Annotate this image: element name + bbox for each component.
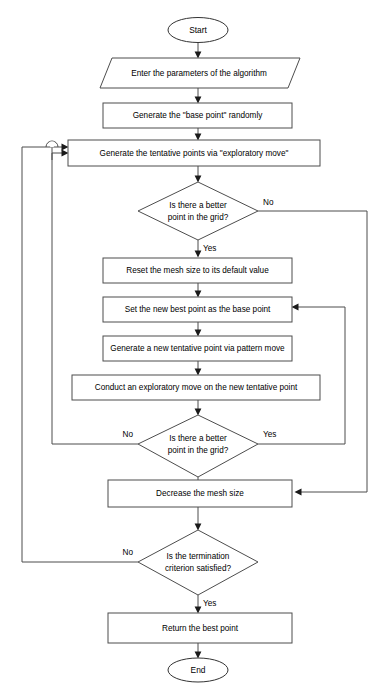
node-generate-pattern-move-label: Generate a new tentative point via patte… xyxy=(110,344,285,353)
node-decision-better-point-1-label-line2: point in the grid? xyxy=(168,213,229,222)
line-jump-mask xyxy=(50,142,54,148)
node-decision-better-point-2-label-line2: point in the grid? xyxy=(168,446,229,455)
node-conduct-exploratory-move-label: Conduct an exploratory move on the new t… xyxy=(95,383,298,392)
arrowhead-genbase-to-gentent xyxy=(195,134,202,141)
arrowhead-decision3-no xyxy=(62,144,69,151)
edge-label-decision1-no: No xyxy=(263,198,274,207)
arrowhead-pattern-to-conduct xyxy=(195,369,202,376)
flowchart-diagram: Start Enter the parameters of the algori… xyxy=(0,0,388,692)
node-decrease-mesh-size-label: Decrease the mesh size xyxy=(156,489,244,498)
arrowhead-decision3-yes xyxy=(195,607,202,614)
node-decision-better-point-1-label-line1: Is there a better xyxy=(169,201,227,210)
edge-label-decision1-yes: Yes xyxy=(203,244,216,253)
arrowhead-reset-to-setbest xyxy=(195,291,202,298)
node-reset-mesh-size-label: Reset the mesh size to its default value xyxy=(126,266,269,275)
node-generate-base-point-label: Generate the "base point" randomly xyxy=(133,111,264,120)
node-decision-termination-label-line2: criterion satisfied? xyxy=(165,564,231,573)
node-decision-termination-label-line1: Is the termination xyxy=(167,552,230,561)
edge-label-decision2-no: No xyxy=(123,430,134,439)
node-start-label: Start xyxy=(189,25,207,35)
arrowhead-decision1-no xyxy=(295,489,302,496)
node-end-label: End xyxy=(191,665,206,675)
edge-label-decision3-yes: Yes xyxy=(203,599,216,608)
edge-label-decision3-no: No xyxy=(123,548,134,557)
node-generate-tentative-points-label: Generate the tentative points via "explo… xyxy=(100,149,289,158)
node-decision-better-point-2-label-line1: Is there a better xyxy=(169,434,227,443)
flowchart-canvas: Start Enter the parameters of the algori… xyxy=(0,0,388,692)
node-set-best-point-label: Set the new best point as the base point xyxy=(125,305,271,314)
arrowhead-decision2-no xyxy=(62,150,69,157)
arrowhead-decision2-yes xyxy=(292,304,299,311)
edge-label-decision2-yes: Yes xyxy=(263,430,276,439)
arrowhead-return-to-end xyxy=(195,652,202,659)
node-decision-better-point-1[interactable] xyxy=(138,182,258,240)
arrowhead-input-to-genbase xyxy=(195,97,202,104)
node-input-params-label: Enter the parameters of the algorithm xyxy=(131,69,267,78)
node-decision-termination[interactable] xyxy=(138,530,258,595)
node-return-best-point-label: Return the best point xyxy=(162,624,239,633)
arrowhead-decision1-yes xyxy=(195,251,202,258)
arrowhead-start-to-input xyxy=(195,52,202,59)
arrowhead-setbest-to-pattern xyxy=(195,330,202,337)
